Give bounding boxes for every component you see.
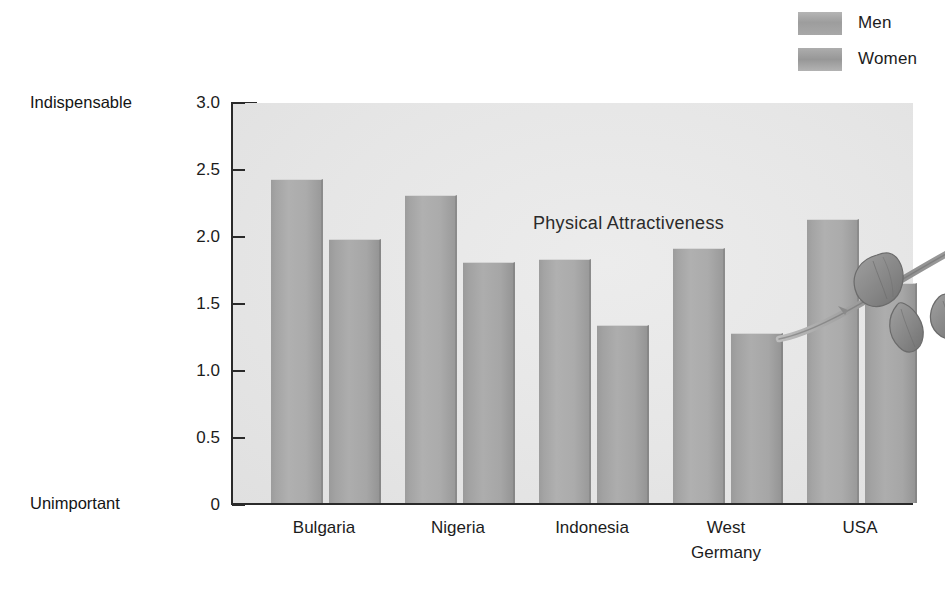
y-axis-tick — [232, 370, 245, 373]
legend-label-men: Men — [858, 13, 892, 33]
bar-body — [673, 248, 725, 503]
bar-men-usa — [807, 219, 859, 503]
y-axis-tick-label: 0 — [211, 495, 220, 515]
y-axis-tick — [232, 303, 245, 306]
y-axis-tick-label: 0.5 — [196, 428, 220, 448]
bar-men-indonesia — [539, 259, 591, 503]
chart-figure: Men Women Indispensable Unimportant 00.5… — [0, 0, 945, 602]
bar-women-indonesia — [597, 325, 649, 503]
y-axis-tick-label: 1.0 — [196, 361, 220, 381]
y-axis-tick — [232, 437, 245, 440]
bar-body — [271, 179, 323, 503]
legend-item-men: Men — [798, 8, 938, 38]
bar-body — [865, 283, 917, 503]
y-axis-tick — [232, 236, 245, 239]
women-swatch-icon — [798, 48, 842, 71]
x-axis-label-indonesia: Indonesia — [522, 515, 662, 540]
rose-illustration-icon — [773, 211, 945, 361]
bar-body — [463, 262, 515, 503]
bar-body — [329, 239, 381, 503]
bar-body — [807, 219, 859, 503]
bar-body — [597, 325, 649, 503]
y-axis-tick — [232, 504, 245, 507]
y-axis-tick-label: 1.5 — [196, 294, 220, 314]
y-axis-tick — [232, 169, 245, 172]
bar-body — [405, 195, 457, 503]
bar-men-west-germany — [673, 248, 725, 503]
y-axis-tick — [232, 102, 245, 105]
x-axis-label-bulgaria: Bulgaria — [254, 515, 394, 540]
bar-women-bulgaria — [329, 239, 381, 503]
bar-women-usa — [865, 283, 917, 503]
axis-label-unimportant: Unimportant — [30, 494, 120, 513]
y-axis-tick-label: 3.0 — [196, 93, 220, 113]
y-axis-tick-label: 2.5 — [196, 160, 220, 180]
axis-label-indispensable: Indispensable — [30, 93, 132, 112]
legend-item-women: Women — [798, 44, 938, 74]
bar-men-nigeria — [405, 195, 457, 503]
bar-men-bulgaria — [271, 179, 323, 503]
plot-area: 00.51.01.52.02.53.0 Physical Attractiven… — [231, 103, 913, 505]
bar-body — [731, 333, 783, 503]
legend-label-women: Women — [858, 49, 917, 69]
chart-title: Physical Attractiveness — [533, 213, 724, 234]
x-axis-label-usa: USA — [790, 515, 930, 540]
bar-women-nigeria — [463, 262, 515, 503]
y-axis-tick-label: 2.0 — [196, 227, 220, 247]
x-axis-label-west-germany: West Germany — [656, 515, 796, 565]
bar-women-west-germany — [731, 333, 783, 503]
x-axis-label-nigeria: Nigeria — [388, 515, 528, 540]
legend: Men Women — [798, 8, 938, 80]
men-swatch-icon — [798, 12, 842, 35]
bar-body — [539, 259, 591, 503]
